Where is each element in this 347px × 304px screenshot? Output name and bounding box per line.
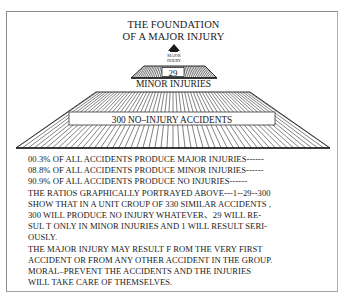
apex-major-injury: MAJOR INJURY [167, 44, 181, 63]
text-line: 00.3% OF ALL ACCIDENTS PRODUCE MAJOR INJ… [28, 154, 338, 165]
text-line: 300 WILL PRODUCE NO INJURY WHATEVER、29 W… [28, 210, 338, 221]
text-line: MORAL–PREVENT THE ACCIDENTS AND THE INJU… [28, 266, 338, 277]
middle-count: 29 [169, 68, 179, 78]
text-line: ACCIDENT OR FROM ANY OTHER ACCIDENT IN T… [28, 255, 338, 266]
text-line: SHOW THAT IN A UNIT CROUP OF 330 SIMILAR… [28, 199, 338, 210]
text-line: 90.9% OF ALL ACCIDENTS PRODUCE NO INJURI… [28, 176, 338, 187]
svg-text:INJURY: INJURY [167, 58, 181, 63]
text-line: SUL T ONLY IN MINOR INJURIES AND 1 WILL … [28, 221, 338, 232]
base-label: 300 NO–INJURY ACCIDENTS [112, 115, 233, 125]
text-line: OUSLY. [28, 232, 338, 243]
text-line: THE MAJOR INJURY MAY RESULT F ROM THE VE… [28, 244, 338, 255]
minor-injuries-label: MINOR INJURIES [0, 79, 347, 90]
explanation-text: 00.3% OF ALL ACCIDENTS PRODUCE MAJOR INJ… [28, 154, 338, 288]
text-line: 08.8% OF ALL ACCIDENTS PRODUCE MINOR INJ… [28, 165, 338, 176]
text-line: THE RATIOS GRAPHICALLY PORTRAYED ABOVE--… [28, 188, 338, 199]
text-line: WILL TAKE CARE OF THEMSELVES. [28, 277, 338, 288]
